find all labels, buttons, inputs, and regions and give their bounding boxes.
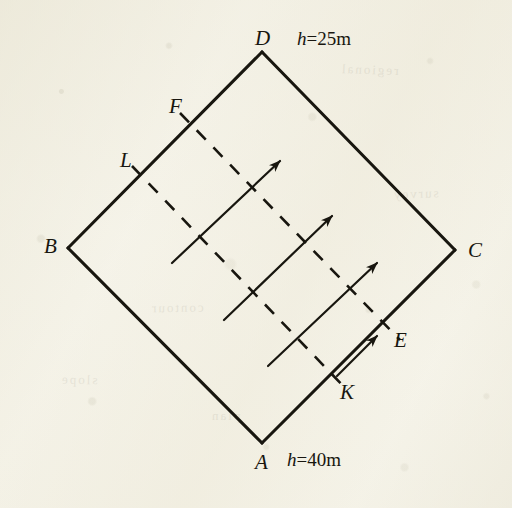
dashed-line-FE	[180, 113, 400, 340]
height-symbol-top: h	[297, 28, 307, 49]
point-label-K: K	[340, 382, 354, 403]
vertex-label-C: C	[468, 240, 482, 261]
height-annotation-top: h=25m	[297, 29, 351, 48]
point-label-E: E	[394, 330, 407, 351]
arrow-4	[337, 336, 377, 376]
quad-edge-BA	[68, 248, 262, 443]
vertex-label-D: D	[255, 28, 270, 49]
arrow-1	[172, 161, 280, 263]
height-value-top: =25m	[307, 28, 352, 49]
point-label-F: F	[169, 96, 182, 117]
vertex-label-B: B	[44, 236, 57, 257]
quadrilateral-outline	[68, 52, 455, 443]
arrow-2	[224, 216, 332, 320]
height-value-bottom: =40m	[297, 449, 342, 470]
flow-arrows	[172, 161, 377, 376]
dashed-contour-lines	[132, 113, 400, 391]
height-annotation-bottom: h=40m	[287, 450, 341, 469]
arrow-3	[268, 263, 377, 366]
quad-edge-AC	[262, 250, 455, 443]
height-symbol-bottom: h	[287, 449, 297, 470]
figure-page: regionalcontourslopesurveyplan D B C A F…	[0, 0, 512, 508]
point-label-L: L	[120, 150, 132, 171]
quad-edge-CD	[262, 52, 455, 250]
vertex-label-A: A	[255, 452, 268, 473]
diagram-canvas	[0, 0, 512, 508]
quad-edge-DB	[68, 52, 262, 248]
